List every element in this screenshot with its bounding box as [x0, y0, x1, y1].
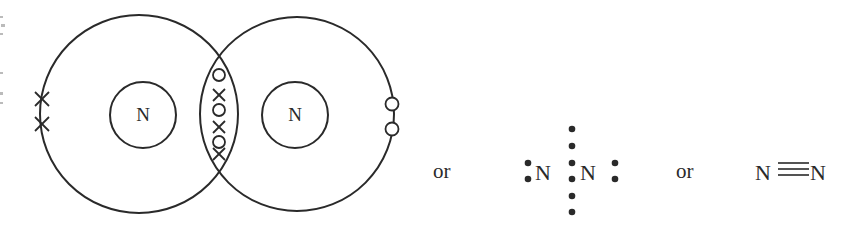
- shared-cross-electron-icon: [213, 148, 225, 160]
- structural-atom-right: N: [810, 160, 826, 185]
- n2-bonding-diagram: N N or N N: [0, 0, 854, 225]
- dot-cross-diagram: [40, 15, 394, 213]
- shared-circle-electron-icon: [213, 104, 225, 116]
- shared-circle-electron-icon: [213, 69, 225, 81]
- or-connector-2: or: [676, 159, 694, 183]
- left-lone-pair: [35, 92, 49, 131]
- circle-electron-icon: [386, 123, 399, 136]
- shared-cross-electron-icon: [213, 121, 225, 133]
- structural-atom-left: N: [755, 160, 771, 185]
- lewis-structure: N N: [525, 126, 619, 216]
- left-lone-pair-dots: [525, 160, 532, 183]
- shared-cross-electron-icon: [213, 89, 225, 101]
- left-nucleus-label: N: [136, 104, 150, 125]
- structural-formula: N N: [755, 160, 826, 185]
- scan-edge-marks: [0, 16, 5, 104]
- shared-dots: [569, 126, 576, 216]
- right-nucleus-label: N: [288, 104, 302, 125]
- shared-circle-electron-icon: [213, 136, 225, 148]
- circle-electron-icon: [386, 98, 399, 111]
- lewis-atom-right: N: [580, 160, 596, 185]
- right-lone-pair: [386, 98, 399, 136]
- right-lone-pair-dots: [612, 160, 619, 183]
- triple-bond-icon: [778, 163, 809, 175]
- shared-electron-pairs: [213, 69, 225, 160]
- or-connector-1: or: [433, 159, 451, 183]
- lewis-atom-left: N: [535, 160, 551, 185]
